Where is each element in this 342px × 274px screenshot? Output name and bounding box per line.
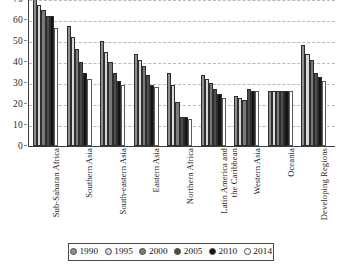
x-category-label-line: Western Asia xyxy=(252,148,262,236)
group-spacer xyxy=(259,145,267,146)
legend-item[interactable]: 2014 xyxy=(244,247,272,256)
x-category-label-line: Latin America and xyxy=(219,148,229,236)
legend-item[interactable]: 2005 xyxy=(174,247,202,256)
x-category-label: Northern Africa xyxy=(185,148,197,236)
y-tick-label: 60 xyxy=(13,16,23,26)
group-spacer xyxy=(226,145,234,146)
legend-swatch-circle-icon xyxy=(139,248,146,255)
x-axis-category-labels: Sub-Saharan AfricaSouthern AsiaSouth-eas… xyxy=(28,148,335,236)
bar xyxy=(188,119,192,146)
bar xyxy=(289,91,293,146)
legend-label: 2010 xyxy=(219,247,238,256)
group-spacer xyxy=(92,145,100,146)
x-category-label: Eastern Asia xyxy=(151,148,163,236)
y-tick-mark xyxy=(24,19,27,20)
legend-item[interactable]: 1990 xyxy=(70,247,98,256)
bar xyxy=(87,79,91,146)
group-spacer xyxy=(125,145,133,146)
plot-area-wrapper: 010203040506070 xyxy=(0,0,342,152)
y-tick-mark xyxy=(24,40,27,41)
x-category-label: Latin America andthe Caribbean xyxy=(219,148,243,236)
chart-legend: 199019952000200520102014 xyxy=(68,243,274,261)
bar-group xyxy=(268,0,293,146)
bar-group xyxy=(100,0,125,146)
group-spacer xyxy=(293,145,301,146)
bar xyxy=(154,87,158,146)
bar xyxy=(322,81,326,146)
x-category-label-line: Northern Africa xyxy=(185,148,195,236)
bar-group xyxy=(201,0,226,146)
bar xyxy=(54,28,58,146)
legend-item[interactable]: 1995 xyxy=(105,247,133,256)
bar-group xyxy=(167,0,192,146)
x-category-label-line: the Caribbean xyxy=(229,148,239,236)
bar xyxy=(121,85,125,146)
legend-swatch-circle-icon xyxy=(244,248,251,255)
x-category-label: Western Asia xyxy=(252,148,264,236)
y-tick-label: 50 xyxy=(13,37,23,47)
bar-groups xyxy=(29,0,335,146)
legend-swatch-circle-icon xyxy=(70,248,77,255)
legend-swatch-circle-icon xyxy=(105,248,112,255)
legend-label: 1990 xyxy=(79,247,98,256)
x-category-label: Oceania xyxy=(286,148,298,236)
y-tick-mark xyxy=(24,124,27,125)
y-tick-label: 0 xyxy=(18,142,23,152)
x-category-label-line: Oceania xyxy=(286,148,296,236)
y-tick-mark xyxy=(24,103,27,104)
legend-item[interactable]: 2010 xyxy=(209,247,237,256)
group-spacer xyxy=(58,145,66,146)
y-tick-label: 20 xyxy=(13,100,23,110)
bar-group xyxy=(234,0,259,146)
bar-group xyxy=(301,0,326,146)
y-tick-label: 10 xyxy=(13,121,23,131)
legend-label: 2005 xyxy=(184,247,203,256)
y-tick-label: 70 xyxy=(13,0,23,5)
x-category-label: Sub-Saharan Africa xyxy=(51,148,63,236)
x-category-label: Developing Regions xyxy=(319,148,331,236)
x-category-label-line: Southern Asia xyxy=(84,148,94,236)
legend-item[interactable]: 2000 xyxy=(139,247,167,256)
legend-label: 2014 xyxy=(253,247,272,256)
group-spacer xyxy=(159,145,167,146)
y-axis: 010203040506070 xyxy=(0,0,28,152)
x-category-label-line: Eastern Asia xyxy=(151,148,161,236)
bar xyxy=(255,91,259,146)
bar-chart: 010203040506070 Sub-Saharan AfricaSouthe… xyxy=(0,0,342,274)
x-category-label: Southern Asia xyxy=(84,148,96,236)
bar xyxy=(222,98,226,146)
x-category-label: South-eastern Asia xyxy=(118,148,130,236)
bar-group xyxy=(67,0,92,146)
bar-group xyxy=(134,0,159,146)
legend-label: 1995 xyxy=(114,247,133,256)
group-spacer xyxy=(192,145,200,146)
y-tick-label: 30 xyxy=(13,79,23,89)
y-tick-label: 40 xyxy=(13,58,23,68)
plot-area xyxy=(28,0,335,147)
legend-swatch-circle-icon xyxy=(209,248,216,255)
legend-label: 2000 xyxy=(149,247,168,256)
y-tick-mark xyxy=(24,145,27,146)
y-tick-mark xyxy=(24,61,27,62)
x-category-label-line: Developing Regions xyxy=(319,148,329,236)
legend-swatch-circle-icon xyxy=(174,248,181,255)
x-category-label-line: Sub-Saharan Africa xyxy=(51,148,61,236)
x-category-label-line: South-eastern Asia xyxy=(118,148,128,236)
bar-group xyxy=(33,0,58,146)
y-tick-mark xyxy=(24,82,27,83)
